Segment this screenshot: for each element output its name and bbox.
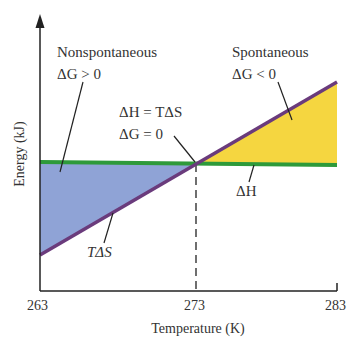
delta-h-label: ΔH	[236, 183, 257, 199]
x-tick-283: 283	[325, 298, 346, 313]
delta-h-leader	[249, 165, 254, 182]
equilibrium-equation: ΔH = TΔS	[119, 104, 182, 120]
nonspontaneous-condition: ΔG > 0	[57, 66, 101, 82]
spontaneous-condition: ΔG < 0	[232, 66, 276, 82]
chart: Nonspontaneous ΔG > 0 Spontaneous ΔG < 0…	[0, 0, 356, 340]
t-delta-s-label: TΔS	[87, 244, 112, 260]
y-axis-arrow-icon	[36, 14, 45, 28]
x-tick-273: 273	[184, 298, 205, 313]
y-axis-label: Energy (kJ)	[12, 121, 28, 187]
equilibrium-leader	[174, 136, 195, 162]
x-axis-label: Temperature (K)	[151, 321, 245, 337]
spontaneous-label: Spontaneous	[232, 44, 309, 60]
equilibrium-condition: ΔG = 0	[119, 126, 163, 142]
nonspontaneous-label: Nonspontaneous	[57, 44, 157, 60]
nonspont-leader	[60, 82, 83, 172]
x-tick-263: 263	[27, 298, 48, 313]
